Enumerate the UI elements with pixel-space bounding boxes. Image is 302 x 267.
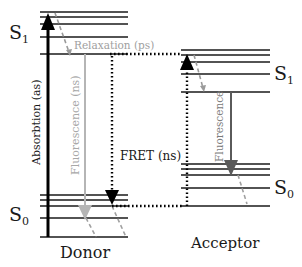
absorption-label: Absorbtion (as) <box>30 80 43 166</box>
donor-s0-relaxation-arrows <box>86 206 126 237</box>
acceptor-s0-label: S0 <box>274 176 294 201</box>
donor-relaxation-arrow <box>55 13 69 52</box>
donor-label: Donor <box>60 243 110 262</box>
absorption-arrow <box>41 13 55 237</box>
relaxation-label: Relaxation (ps) <box>74 39 154 51</box>
acceptor-s1-label: S1 <box>274 62 294 87</box>
donor-s1-label: S1 <box>9 21 29 46</box>
fret-label: FRET (ns) <box>120 149 181 163</box>
fret-jablonski-diagram: S1 S0 S1 S0 Donor Acceptor Relaxation (p… <box>0 0 302 267</box>
donor-s0-label: S0 <box>9 203 29 228</box>
donor-fluorescence-label: Fluorescence (ns) <box>69 75 82 175</box>
fret-donor-arrowhead <box>105 190 119 205</box>
fret-path <box>110 54 187 206</box>
acceptor-fluorescence-arrow <box>224 92 238 176</box>
acceptor-label: Acceptor <box>190 234 260 252</box>
acceptor-s0-levels <box>181 164 270 206</box>
acceptor-s0-relaxation-arrow <box>238 175 247 204</box>
acceptor-fluorescence-label: Fluorescence <box>213 91 225 162</box>
acceptor-relaxation-arrow <box>194 55 203 88</box>
